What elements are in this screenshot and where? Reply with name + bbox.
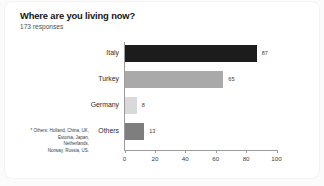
category-label-germany: Germany (29, 101, 119, 108)
x-axis-tick (155, 150, 156, 153)
x-axis-tick-label: 100 (271, 155, 281, 162)
x-axis-line (124, 150, 277, 151)
bar-row-germany: Germany 8 (5, 95, 319, 121)
bar-row-italy: Italy 87 (5, 43, 319, 69)
bar-germany[interactable] (125, 97, 137, 114)
page-background: Where are you living now? 173 responses … (0, 0, 324, 186)
footnote-others: * Others: Holland, China, UK, Estonia, J… (13, 128, 89, 155)
bar-italy[interactable] (125, 45, 257, 62)
x-axis-tick-label: 20 (151, 155, 158, 162)
footnote-line-4: Norway, Russia, US. (13, 148, 89, 155)
x-axis-tick-label: 80 (243, 155, 250, 162)
x-axis-tick (246, 150, 247, 153)
x-axis-tick-label: 60 (212, 155, 219, 162)
category-label-italy: Italy (29, 49, 119, 56)
category-label-turkey: Turkey (29, 75, 119, 82)
x-axis-tick (216, 150, 217, 153)
footnote-line-3: Netherlands, (13, 141, 89, 148)
x-axis-tick-label: 0 (123, 155, 126, 162)
bar-row-turkey: Turkey 65 (5, 69, 319, 95)
x-axis-tick (277, 150, 278, 153)
footnote-line-1: * Others: Holland, China, UK, (13, 128, 89, 135)
x-axis-tick (125, 150, 126, 153)
bar-others[interactable] (125, 123, 145, 140)
value-label-germany: 8 (142, 102, 145, 108)
chart-card: Where are you living now? 173 responses … (5, 2, 319, 178)
bar-turkey[interactable] (125, 71, 224, 88)
value-label-italy: 87 (262, 50, 268, 56)
value-label-turkey: 65 (228, 76, 234, 82)
value-label-others: 13 (149, 128, 155, 134)
x-axis-tick-label: 40 (182, 155, 189, 162)
footnote-line-2: Estonia, Japan, (13, 135, 89, 142)
x-axis-tick (185, 150, 186, 153)
